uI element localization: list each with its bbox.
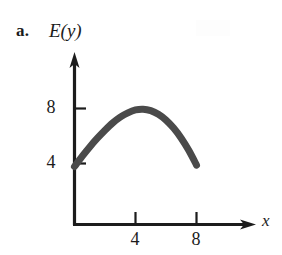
figure-panel: a. E(y) x 8 4 4 8 — [0, 0, 282, 255]
expected-value-curve — [75, 109, 197, 166]
plot-canvas — [0, 0, 282, 255]
